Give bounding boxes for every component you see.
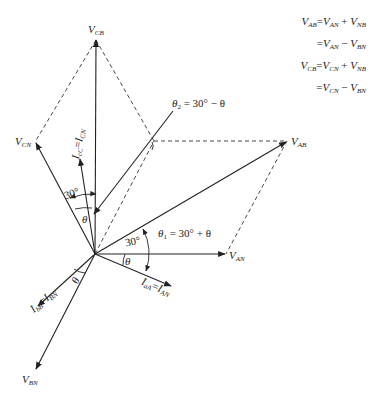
label-v-cn: VCN: [15, 136, 31, 149]
label-theta-right: θ: [125, 256, 130, 267]
equation-line: =VCN − VBN: [301, 78, 366, 100]
equation-line: VCB=VCN + VNB: [301, 56, 366, 78]
equation-block: VAB=VAN + VNB =VAN − VBN VCB=VCN + VNB =…: [301, 12, 366, 100]
v-bn-phasor: [36, 254, 95, 369]
label-v-cb: VCB: [88, 24, 104, 37]
label-theta2: θ2 = 30° − θ: [172, 98, 225, 111]
theta2-pointer: [94, 111, 173, 214]
equation-line: VAB=VAN + VNB: [301, 12, 366, 34]
label-v-an: VAN: [229, 250, 245, 263]
label-v-ab: VAB: [291, 136, 306, 149]
equation-line: =VAN − VBN: [301, 34, 366, 56]
label-v-bn: VBN: [22, 374, 38, 387]
v-cb-phasor: [95, 40, 96, 254]
angle-arcs: [70, 142, 153, 273]
label-theta1: θ1 = 30° + θ: [158, 228, 211, 241]
label-theta-left: θ: [82, 214, 87, 225]
